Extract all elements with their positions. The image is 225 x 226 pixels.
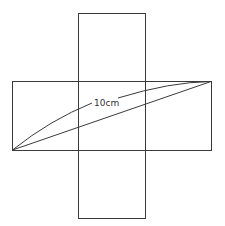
diagonal-line — [13, 82, 212, 151]
dimension-label: 10cm — [94, 98, 119, 108]
cross-net-diagram: 10cm — [0, 0, 225, 226]
dimension-arc-right — [118, 82, 211, 99]
